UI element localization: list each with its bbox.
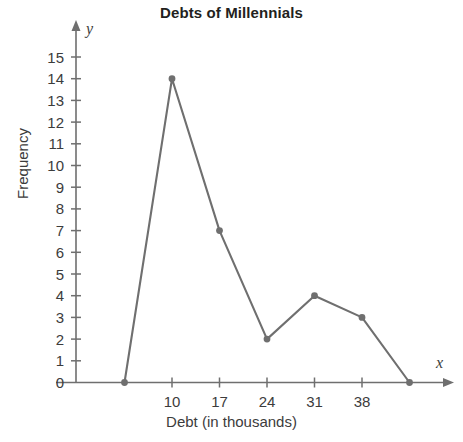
y-tick-label: 7 [56, 222, 64, 239]
y-tick-label: 14 [47, 70, 64, 87]
y-tick-label: 13 [47, 92, 64, 109]
x-tick-label: 38 [354, 393, 371, 410]
y-tick-label: 1 [56, 352, 64, 369]
y-tick-label: 5 [56, 266, 64, 283]
y-tick-label: 3 [56, 309, 64, 326]
y-tick-label: 12 [47, 114, 64, 131]
data-point-marker [216, 227, 223, 234]
data-point-marker [406, 379, 413, 386]
x-tick-label: 10 [164, 393, 181, 410]
y-tick-label: 15 [47, 49, 64, 66]
x-tick-label: 17 [211, 393, 228, 410]
data-point-marker [311, 292, 318, 299]
y-axis-variable-label: y [84, 20, 94, 38]
y-axis-title: Frequency [14, 99, 31, 229]
y-tick-label: 10 [47, 157, 64, 174]
y-tick-label: 6 [56, 244, 64, 261]
x-tick-label: 24 [259, 393, 276, 410]
axes-group: x y [56, 20, 454, 387]
y-tick-label: 2 [56, 331, 64, 348]
data-point-marker [121, 379, 128, 386]
y-tick-label: 11 [48, 135, 64, 152]
data-point-marker [264, 336, 271, 343]
y-tick-label: 8 [56, 200, 64, 217]
y-tick-label: 9 [56, 179, 64, 196]
x-axis-title: Debt (in thousands) [0, 413, 463, 430]
y-axis-arrowhead [72, 20, 81, 31]
x-axis-variable-label: x [435, 354, 443, 371]
y-tick-label: 4 [56, 287, 64, 304]
data-point-marker [169, 75, 176, 82]
chart-container: Debts of Millennials x y 012345678910111… [0, 0, 463, 442]
data-point-marker [359, 314, 366, 321]
x-tick-label: 31 [306, 393, 323, 410]
x-axis-arrowhead [443, 378, 454, 387]
y-tick-label: 0 [56, 374, 64, 391]
line-chart-plot: x y 0123456789101112131415 1017243138 [0, 0, 463, 442]
